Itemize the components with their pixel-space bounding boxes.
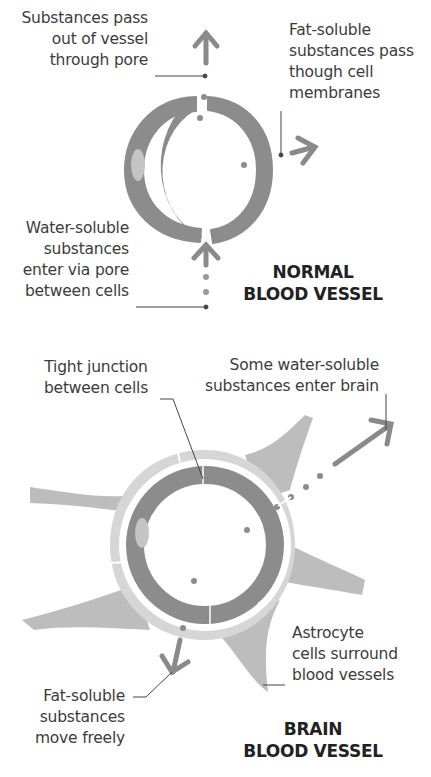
particle (317, 473, 323, 479)
particle (241, 162, 247, 168)
label-astrocyte: Astrocyte cells surround blood vessels (292, 623, 398, 686)
label-some-water-soluble: Some water-soluble substances enter brai… (205, 355, 379, 397)
particle (244, 527, 250, 533)
leader-dot (204, 305, 208, 309)
particle (201, 94, 207, 100)
arrow-up-icon (194, 245, 218, 265)
leader-line (133, 672, 172, 697)
arrow-down-icon (162, 640, 188, 672)
normal-nucleus (131, 149, 145, 181)
particle (203, 274, 209, 280)
label-pass-out: Substances pass out of vessel through po… (21, 8, 148, 71)
label-fat-soluble-normal: Fat-soluble substances pass though cell … (289, 20, 414, 104)
arrow-diagonal-icon (335, 420, 391, 464)
particle (303, 484, 309, 490)
label-fat-soluble-brain: Fat-soluble substances move freely (35, 686, 125, 749)
particle (180, 625, 186, 631)
leader-dot (279, 153, 283, 157)
normal-vessel-wall-right (208, 97, 272, 243)
arrow-up-icon (195, 33, 217, 63)
brain-nucleus (135, 518, 149, 548)
title-brain-blood-vessel: BRAIN BLOOD VESSEL (243, 718, 383, 762)
particle (191, 578, 197, 584)
label-tight-junction: Tight junction between cells (36, 357, 156, 399)
title-normal-blood-vessel: NORMAL BLOOD VESSEL (243, 261, 383, 305)
label-water-soluble-normal: Water-soluble substances enter via pore … (23, 218, 129, 302)
particle (203, 289, 209, 295)
leader-dot (203, 74, 207, 78)
particle (197, 115, 203, 121)
arrow-right-icon (292, 138, 315, 163)
